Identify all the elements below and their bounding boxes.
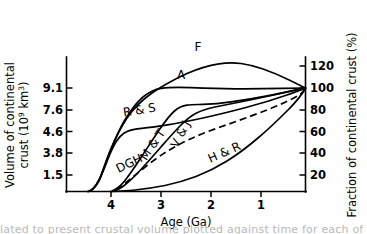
left-tick-label-1: 7.6	[43, 103, 63, 117]
right-tick-label-5: 20	[310, 168, 326, 182]
y-axis-title-left: Volume of continental crust (109 km3)	[3, 62, 31, 188]
left-axis-ticks	[67, 88, 73, 175]
right-axis-tick-labels: 120 100 80 60 40 20	[310, 59, 334, 182]
y-axis-title-left-line1: Volume of continental	[3, 62, 17, 188]
caption-cutoff-text: lated to present crustal volume plotted …	[0, 224, 367, 234]
left-tick-label-2: 4.6	[43, 125, 63, 139]
x-tick-label-1: 3	[157, 198, 165, 212]
right-tick-label-2: 80	[310, 103, 326, 117]
chart-svg: 9.1 7.6 4.6 3.8 1.5 120 100 80 60 40 20	[0, 0, 367, 234]
y-axis-title-right: Fraction of continental crust (%)	[345, 32, 359, 217]
curve-label-dgh: DGH	[114, 151, 145, 176]
left-axis-tick-labels: 9.1 7.6 4.6 3.8 1.5	[43, 81, 63, 182]
right-tick-label-0: 120	[310, 59, 334, 73]
x-tick-label-2: 2	[207, 198, 215, 212]
x-tick-label-3: 1	[257, 198, 265, 212]
right-axis-ticks	[300, 66, 306, 175]
curve-label-f: F	[195, 40, 202, 54]
curve-label-a: A	[177, 68, 186, 82]
right-tick-label-1: 100	[310, 81, 334, 95]
curve-label-rs: R & S	[122, 101, 157, 120]
left-tick-label-0: 9.1	[43, 81, 63, 95]
left-tick-label-3: 3.8	[43, 146, 63, 160]
y-axis-title-left-line2: crust (109 km3)	[17, 81, 31, 168]
bottom-axis-ticks	[111, 192, 261, 198]
chart-figure: 9.1 7.6 4.6 3.8 1.5 120 100 80 60 40 20	[0, 0, 367, 234]
right-tick-label-4: 40	[310, 146, 326, 160]
left-tick-label-4: 1.5	[43, 168, 63, 182]
right-tick-label-3: 60	[310, 125, 326, 139]
bottom-axis-tick-labels: 4 3 2 1	[107, 198, 265, 212]
x-tick-label-0: 4	[107, 198, 115, 212]
